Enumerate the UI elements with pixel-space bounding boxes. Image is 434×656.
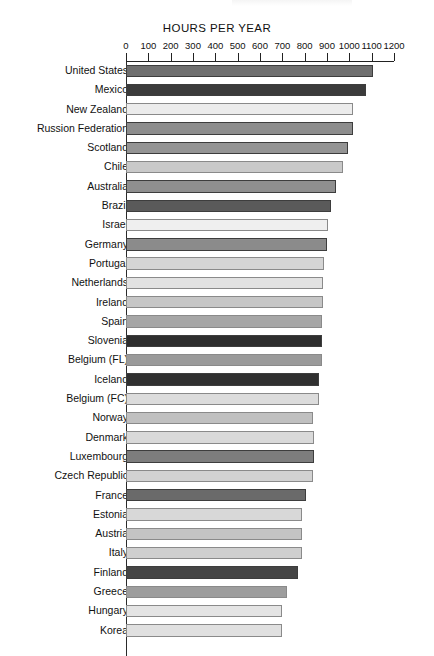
bar bbox=[126, 586, 287, 598]
bar bbox=[126, 103, 353, 115]
bar bbox=[126, 296, 323, 308]
chart-row: Mexico bbox=[0, 81, 434, 100]
chart-row: Chile bbox=[0, 158, 434, 177]
bar bbox=[126, 528, 302, 540]
bar bbox=[126, 180, 336, 192]
bar bbox=[126, 624, 282, 636]
bar bbox=[126, 122, 353, 134]
bar bbox=[126, 450, 314, 462]
category-label: Chile bbox=[0, 159, 128, 173]
chart-row: Slovenia bbox=[0, 332, 434, 351]
chart-row: Portugal bbox=[0, 255, 434, 274]
x-axis: 0100200300400500600700800900100011001200 bbox=[0, 0, 434, 70]
chart-row: Iceland bbox=[0, 371, 434, 390]
chart-row: Australia bbox=[0, 178, 434, 197]
category-label: France bbox=[0, 488, 128, 502]
bar bbox=[126, 431, 314, 443]
category-label: Ireland bbox=[0, 295, 128, 309]
x-tick-label: 600 bbox=[252, 40, 268, 51]
category-label: Portugal bbox=[0, 256, 128, 270]
chart-row: Estonia bbox=[0, 506, 434, 525]
chart-row: Russion Federation bbox=[0, 120, 434, 139]
category-label: Finland bbox=[0, 565, 128, 579]
chart-row: Ireland bbox=[0, 294, 434, 313]
category-label: Germany bbox=[0, 237, 128, 251]
chart-row: Austria bbox=[0, 525, 434, 544]
category-label: New Zealand bbox=[0, 102, 128, 116]
category-label: Estonia bbox=[0, 507, 128, 521]
category-label: Belgium (FL) bbox=[0, 352, 128, 366]
chart-row: Netherlands bbox=[0, 274, 434, 293]
bar bbox=[126, 547, 302, 559]
chart-row: Norway bbox=[0, 409, 434, 428]
x-tick-mark bbox=[394, 53, 395, 61]
chart-row: Finland bbox=[0, 564, 434, 583]
chart-row: United States bbox=[0, 62, 434, 81]
chart-row: Belgium (FL) bbox=[0, 351, 434, 370]
bar bbox=[126, 335, 322, 347]
bar bbox=[126, 84, 366, 96]
bar bbox=[126, 65, 373, 77]
chart-row: Germany bbox=[0, 236, 434, 255]
category-label: Greece bbox=[0, 584, 128, 598]
bar bbox=[126, 470, 313, 482]
bar bbox=[126, 219, 328, 231]
category-label: Austria bbox=[0, 526, 128, 540]
category-label: Slovenia bbox=[0, 333, 128, 347]
bar bbox=[126, 354, 322, 366]
chart-row: Denmark bbox=[0, 429, 434, 448]
category-label: Denmark bbox=[0, 430, 128, 444]
bar bbox=[126, 257, 324, 269]
bar bbox=[126, 238, 327, 250]
chart-row: Brazil bbox=[0, 197, 434, 216]
bar bbox=[126, 277, 323, 289]
bar bbox=[126, 508, 302, 520]
bar bbox=[126, 315, 322, 327]
x-tick-label: 0 bbox=[123, 40, 128, 51]
x-tick-label: 900 bbox=[319, 40, 335, 51]
category-label: Brazil bbox=[0, 198, 128, 212]
category-label: Norway bbox=[0, 410, 128, 424]
category-label: Belgium (FC) bbox=[0, 391, 128, 405]
chart-row: Belgium (FC) bbox=[0, 390, 434, 409]
chart-row: Greece bbox=[0, 583, 434, 602]
bar bbox=[126, 200, 331, 212]
category-label: Mexico bbox=[0, 82, 128, 96]
chart-row: France bbox=[0, 487, 434, 506]
category-label: Korea bbox=[0, 623, 128, 637]
x-tick-label: 1200 bbox=[383, 40, 404, 51]
bar bbox=[126, 373, 319, 385]
category-label: Australia bbox=[0, 179, 128, 193]
x-tick-label: 300 bbox=[185, 40, 201, 51]
bar bbox=[126, 161, 343, 173]
category-label: Netherlands bbox=[0, 275, 128, 289]
x-tick-label: 800 bbox=[297, 40, 313, 51]
bar bbox=[126, 142, 348, 154]
category-label: Scotland bbox=[0, 140, 128, 154]
chart-row: Czech Republic bbox=[0, 467, 434, 486]
bar bbox=[126, 489, 306, 501]
category-label: Spain bbox=[0, 314, 128, 328]
category-label: Hungary bbox=[0, 603, 128, 617]
bar bbox=[126, 566, 298, 578]
x-tick-label: 200 bbox=[163, 40, 179, 51]
category-label: Luxembourg bbox=[0, 449, 128, 463]
chart-row: Israel bbox=[0, 216, 434, 235]
chart-row: Luxembourg bbox=[0, 448, 434, 467]
bar bbox=[126, 605, 282, 617]
x-tick-label: 700 bbox=[274, 40, 290, 51]
plot-area: United StatesMexicoNew ZealandRussion Fe… bbox=[0, 62, 434, 656]
x-tick-label: 1000 bbox=[339, 40, 360, 51]
x-tick-label: 100 bbox=[140, 40, 156, 51]
chart-row: Hungary bbox=[0, 602, 434, 621]
bar bbox=[126, 412, 313, 424]
category-label: Israel bbox=[0, 217, 128, 231]
bar bbox=[126, 393, 319, 405]
x-tick-label: 500 bbox=[230, 40, 246, 51]
x-tick-label: 400 bbox=[207, 40, 223, 51]
category-label: Russion Federation bbox=[0, 121, 128, 135]
chart-row: New Zealand bbox=[0, 101, 434, 120]
category-label: Czech Republic bbox=[0, 468, 128, 482]
chart-row: Italy bbox=[0, 544, 434, 563]
chart-row: Spain bbox=[0, 313, 434, 332]
